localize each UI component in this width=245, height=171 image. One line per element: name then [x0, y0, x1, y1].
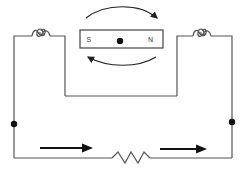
- right-coil: [193, 29, 211, 36]
- right-junction-dot: [229, 119, 235, 125]
- left-junction-dot: [11, 121, 17, 127]
- south-pole-label: S: [87, 36, 92, 43]
- rotation-arrow-top: [86, 7, 157, 18]
- north-pole-label: N: [148, 36, 153, 43]
- bar-magnet: S N: [80, 30, 163, 48]
- right-current-arrow-right: [160, 145, 207, 154]
- left-inner-wire: [50, 36, 65, 96]
- resistor: [112, 152, 150, 163]
- left-current-arrow-right: [40, 144, 93, 153]
- right-inner-wire: [177, 36, 193, 96]
- left-coil: [32, 29, 50, 36]
- right-outer-wire: [211, 36, 232, 158]
- pivot-dot: [117, 38, 123, 44]
- left-outer-wire: [14, 36, 32, 158]
- generator-circuit-diagram: S N: [0, 0, 245, 171]
- right-circuit-loop: [177, 29, 232, 158]
- left-circuit-loop: [14, 29, 65, 158]
- rotation-arrow-bottom: [88, 57, 156, 65]
- bottom-wire: [14, 152, 232, 163]
